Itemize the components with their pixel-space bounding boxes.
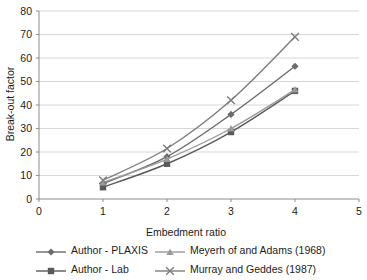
x-tick-label-0: 0: [36, 205, 42, 217]
x-axis-tick-labels: 012345: [36, 205, 362, 217]
y-tick-label-70: 70: [20, 28, 32, 40]
x-axis-title: Embedment ratio: [146, 226, 226, 238]
series-2: [99, 86, 298, 185]
x-tick-label-1: 1: [100, 205, 106, 217]
y-tick-label-10: 10: [20, 169, 32, 181]
legend-item-author-lab[interactable]: Author - Lab: [36, 260, 129, 277]
gridlines: [39, 11, 359, 176]
chart-legend: Author - PLAXIS Author - Lab Meyerh of a…: [0, 238, 367, 280]
y-tick-label-50: 50: [20, 75, 32, 87]
data-point-3-1: [163, 145, 171, 153]
legend-marker-square-icon: [36, 263, 66, 275]
y-tick-label-30: 30: [20, 122, 32, 134]
legend-label: Murray and Geddes (1987): [190, 263, 316, 275]
data-point-3-2: [227, 97, 235, 105]
legend-marker-cross-icon: [155, 263, 185, 275]
y-tick-label-0: 0: [26, 193, 32, 205]
y-tick-label-60: 60: [20, 52, 32, 64]
legend-label: Author - Lab: [71, 263, 129, 275]
chart-container: 01020304050607080 012345 Break-out facto…: [0, 0, 367, 280]
legend-marker-diamond: [47, 248, 54, 255]
legend-item-meyerhof-adams[interactable]: Meyerh of and Adams (1968): [155, 241, 325, 258]
y-tick-label-80: 80: [20, 5, 32, 17]
legend-item-murray-geddes[interactable]: Murray and Geddes (1987): [155, 260, 316, 277]
y-tick-label-40: 40: [20, 99, 32, 111]
y-axis-title: Break-out factor: [4, 66, 16, 141]
legend-label: Meyerh of and Adams (1968): [190, 244, 325, 256]
legend-marker-triangle-icon: [155, 244, 185, 256]
legend-label: Author - PLAXIS: [71, 244, 148, 256]
series-line-0: [103, 66, 295, 184]
x-tick-label-3: 3: [228, 205, 234, 217]
legend-item-author-plaxis[interactable]: Author - PLAXIS: [36, 241, 148, 258]
x-tick-label-4: 4: [292, 205, 298, 217]
y-tick-label-20: 20: [20, 146, 32, 158]
data-series-group: [99, 33, 299, 190]
x-tick-label-2: 2: [164, 205, 170, 217]
legend-marker-diamond-icon: [36, 244, 66, 256]
y-axis-tick-labels: 01020304050607080: [20, 5, 32, 205]
legend-marker-square: [48, 267, 54, 273]
x-tick-label-5: 5: [356, 205, 362, 217]
